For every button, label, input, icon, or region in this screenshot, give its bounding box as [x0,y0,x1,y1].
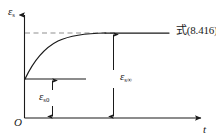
initial-strain-label: εs0 [39,91,49,102]
final-strain-subscript: s∞ [124,76,132,83]
figure-canvas [0,0,216,139]
origin-label: O [14,117,22,128]
y-axis-label-subscript: s [12,11,15,18]
y-axis-label: εs [8,6,15,17]
formula-reference-label: 式(8.416) [176,25,216,36]
creep-strain-curve [25,33,105,79]
formula-prefix: 式 [176,24,187,37]
formula-number: (8.416) [187,24,216,36]
final-strain-label: εs∞ [120,71,132,82]
creep-strain-figure: εs t O εs0 εs∞ 式(8.416) [0,0,216,139]
x-axis-label: t [203,124,206,135]
initial-strain-subscript: s0 [43,96,49,103]
